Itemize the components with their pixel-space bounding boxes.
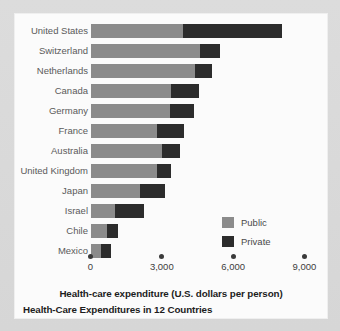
bar-segment-public[interactable] — [91, 184, 141, 198]
axis-tick-label: 3,000 — [150, 261, 174, 272]
category-label: Japan — [62, 183, 88, 199]
axis-tick-marker — [231, 254, 236, 259]
legend-swatch-public — [222, 217, 234, 228]
chart-row: Japan — [15, 184, 327, 198]
stacked-bar[interactable] — [91, 44, 221, 58]
axis-tick-label: 9,000 — [293, 261, 317, 272]
chart-figure: United StatesSwitzerlandNetherlandsCanad… — [0, 0, 340, 331]
bar-segment-public[interactable] — [91, 104, 171, 118]
bar-segment-private[interactable] — [157, 164, 171, 178]
chart-row: France — [15, 124, 327, 138]
bar-segment-private[interactable] — [157, 124, 184, 138]
stacked-bar[interactable] — [91, 224, 118, 238]
chart-row: Australia — [15, 144, 327, 158]
axis-tick-label: 0 — [88, 261, 93, 272]
category-label: Canada — [55, 83, 88, 99]
category-label: United Kingdom — [20, 163, 88, 179]
bar-segment-public[interactable] — [91, 44, 200, 58]
stacked-bar[interactable] — [91, 84, 199, 98]
bar-segment-private[interactable] — [200, 44, 220, 58]
chart-row: Switzerland — [15, 44, 327, 58]
legend-label: Private — [241, 233, 271, 250]
chart-row: United Kingdom — [15, 164, 327, 178]
chart-panel: United StatesSwitzerlandNetherlandsCanad… — [15, 14, 327, 318]
legend-swatch-private — [222, 236, 234, 247]
chart-title: Health-Care Expenditures in 12 Countries — [23, 304, 212, 315]
stacked-bar[interactable] — [91, 64, 212, 78]
category-label: Netherlands — [37, 63, 88, 79]
legend-item[interactable]: Public — [222, 214, 322, 233]
chart-row: Canada — [15, 84, 327, 98]
legend-item[interactable]: Private — [222, 233, 322, 252]
stacked-bar[interactable] — [91, 124, 185, 138]
bar-segment-public[interactable] — [91, 24, 184, 38]
category-label: Germany — [49, 103, 88, 119]
bar-segment-private[interactable] — [162, 144, 180, 158]
stacked-bar[interactable] — [91, 144, 180, 158]
chart-row: Germany — [15, 104, 327, 118]
bar-segment-public[interactable] — [91, 204, 116, 218]
category-label: France — [58, 123, 88, 139]
stacked-bar[interactable] — [91, 24, 282, 38]
chart-legend: PublicPrivate — [222, 214, 322, 252]
bar-segment-public[interactable] — [91, 124, 158, 138]
bar-segment-private[interactable] — [183, 24, 282, 38]
bar-segment-private[interactable] — [195, 64, 212, 78]
chart-row: United States — [15, 24, 327, 38]
bar-segment-public[interactable] — [91, 64, 196, 78]
category-label: United States — [31, 23, 88, 39]
bar-segment-private[interactable] — [171, 84, 198, 98]
axis-tick-marker — [302, 254, 307, 259]
bar-segment-private[interactable] — [140, 184, 165, 198]
category-label: Israel — [65, 203, 88, 219]
x-axis: 03,0006,0009,000 — [15, 254, 327, 284]
category-label: Australia — [51, 143, 88, 159]
stacked-bar[interactable] — [91, 104, 194, 118]
stacked-bar[interactable] — [91, 164, 172, 178]
bar-segment-public[interactable] — [91, 224, 108, 238]
category-label: Switzerland — [39, 43, 88, 59]
bar-segment-private[interactable] — [115, 204, 144, 218]
legend-label: Public — [241, 214, 267, 231]
stacked-bar[interactable] — [91, 204, 144, 218]
axis-tick-label: 6,000 — [221, 261, 245, 272]
axis-tick-marker — [159, 254, 164, 259]
bar-segment-private[interactable] — [170, 104, 194, 118]
bar-segment-public[interactable] — [91, 84, 172, 98]
x-axis-label: Health-care expenditure (U.S. dollars pe… — [15, 288, 327, 299]
bar-segment-public[interactable] — [91, 164, 158, 178]
chart-row: Netherlands — [15, 64, 327, 78]
bar-segment-public[interactable] — [91, 144, 162, 158]
category-label: Chile — [66, 223, 88, 239]
axis-tick-marker — [88, 254, 93, 259]
bar-segment-private[interactable] — [107, 224, 118, 238]
stacked-bar[interactable] — [91, 184, 166, 198]
